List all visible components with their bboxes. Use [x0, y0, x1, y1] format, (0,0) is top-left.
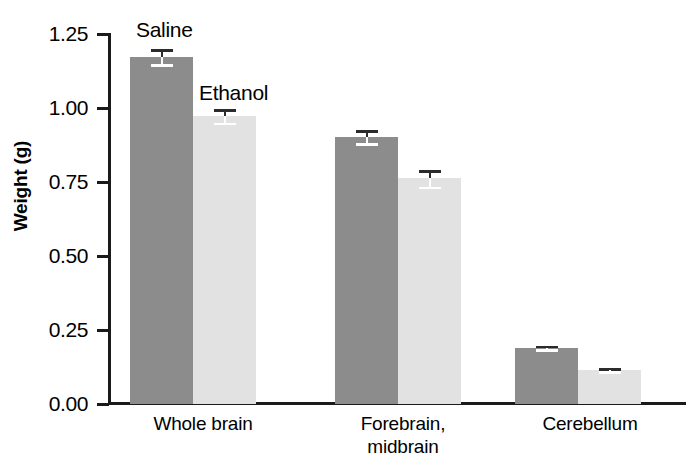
error-bar-stem-lower	[429, 178, 431, 186]
plot-area	[111, 33, 686, 404]
series-annotation-ethanol: Ethanol	[199, 81, 268, 105]
error-bar-cap-lower	[599, 371, 621, 374]
error-bar-cap-lower	[536, 349, 558, 352]
y-tick-label-5: 1.25	[49, 22, 93, 46]
x-category-label-cerebellum: Cerebellum	[495, 412, 685, 435]
y-tick-mark-4	[97, 107, 109, 110]
error-bar-cap-lower	[356, 143, 378, 146]
bar-chart-figure: Weight (g) 0.00 0.25 0.50 0.75 1.00 1.25…	[0, 0, 690, 471]
error-bar-cap-upper	[214, 109, 236, 112]
y-axis-label: Weight (g)	[10, 121, 32, 251]
series-annotation-saline: Saline	[136, 18, 193, 42]
bar-saline-whole-brain	[130, 57, 193, 404]
error-bar-cap-upper	[356, 130, 378, 133]
x-category-label-forebrain-midbrain: Forebrain, midbrain	[308, 412, 498, 458]
y-tick-label-1: 0.25	[49, 318, 93, 342]
error-bar-stem-lower	[161, 57, 163, 64]
y-tick-mark-2	[97, 255, 109, 258]
y-tick-mark-3	[97, 181, 109, 184]
y-tick-label-3: 0.75	[49, 170, 93, 194]
bar-ethanol-cerebellum	[578, 370, 641, 404]
y-tick-mark-0	[97, 403, 109, 406]
error-bar-cap-lower	[214, 123, 236, 126]
bar-ethanol-forebrainmidbrain	[398, 178, 461, 404]
x-category-label-whole-brain: Whole brain	[108, 412, 298, 435]
bar-saline-forebrainmidbrain	[335, 137, 398, 404]
y-tick-label-2: 0.50	[49, 244, 93, 268]
y-tick-mark-5	[97, 33, 109, 36]
y-tick-label-0: 0.00	[49, 392, 93, 416]
bar-saline-cerebellum	[515, 348, 578, 404]
error-bar-cap-upper	[151, 49, 173, 52]
error-bar-cap-upper	[419, 170, 441, 173]
y-tick-label-4: 1.00	[49, 96, 93, 120]
y-tick-mark-1	[97, 329, 109, 332]
error-bar-stem-lower	[224, 116, 226, 123]
error-bar-cap-lower	[151, 64, 173, 67]
error-bar-stem-lower	[366, 137, 368, 144]
bar-ethanol-whole-brain	[193, 116, 256, 404]
error-bar-cap-lower	[419, 187, 441, 190]
